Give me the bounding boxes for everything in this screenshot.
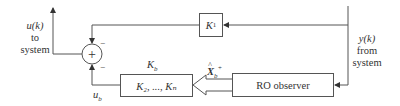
summer-plus-sign: + [88, 47, 96, 62]
minus-sign-bottom: − [100, 61, 105, 73]
k1-label: K [206, 20, 213, 31]
ub-sub: b [98, 95, 102, 103]
ro-observer-label: RO observer [256, 80, 309, 91]
y-k-from-text: from [350, 45, 384, 57]
minus-sign-top: − [100, 37, 105, 49]
u-k-text: u(k) [18, 20, 52, 32]
ro-observer-block: RO observer [232, 73, 334, 97]
kb-sub: b [154, 65, 158, 73]
kb-label: Kb [147, 59, 158, 75]
x-hat-sup: + [218, 64, 223, 72]
input-y-label: y(k) from system [350, 33, 384, 69]
k1-to-summer-line [92, 25, 199, 43]
kb-to-summer-line [92, 65, 120, 85]
x-hat-sub: b [214, 72, 218, 80]
kb-main: K [147, 59, 154, 70]
k1-subscript: 1 [213, 21, 217, 29]
u-k-to-text: to [18, 32, 52, 44]
output-signal-line [53, 8, 82, 54]
k1-gain-block: K1 [199, 13, 223, 37]
y-k-text: y(k) [350, 33, 384, 45]
y-k-system-text: system [350, 57, 384, 69]
u-k-system-text: system [18, 44, 52, 56]
output-u-label: u(k) to system [18, 20, 52, 56]
state-estimate-label: X^b+ [207, 62, 222, 82]
x-hat-main: X^ [207, 66, 214, 77]
ub-label: ub [93, 89, 102, 105]
kb-gain-block: K₂, ..., Kₙ [120, 74, 193, 97]
kb-gain-label: K₂, ..., Kₙ [136, 80, 176, 92]
